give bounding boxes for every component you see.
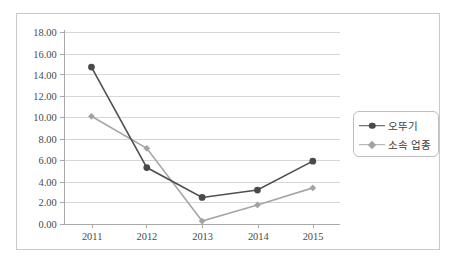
chart-frame: 0.002.004.006.008.0010.0012.0014.0016.00… (16, 13, 440, 250)
legend-item-series-a[interactable]: 오뚜기 (354, 116, 438, 135)
y-axis-tick-label: 8.00 (39, 134, 57, 145)
legend-marker-circle-icon (359, 120, 385, 132)
y-axis-tick-label: 14.00 (33, 70, 56, 81)
series-line-b (91, 116, 312, 221)
x-axis-tick-label: 2011 (82, 231, 103, 242)
y-axis-tick-label: 6.00 (39, 155, 57, 166)
legend-marker-diamond-icon (359, 139, 385, 151)
y-axis-tick-labels: 0.002.004.006.008.0010.0012.0014.0016.00… (33, 27, 56, 230)
chart-legend: 오뚜기 소속 업종 (353, 111, 439, 157)
x-axis-tick-labels: 20112012201320142015 (82, 231, 324, 242)
y-axis-tick-label: 0.00 (39, 219, 57, 230)
data-point-marker-diamond[interactable] (309, 185, 316, 192)
data-point-marker-circle[interactable] (254, 187, 261, 194)
y-axis-tick-label: 10.00 (33, 112, 56, 123)
data-point-marker-circle[interactable] (199, 194, 206, 201)
legend-label-series-a: 오뚜기 (385, 118, 418, 133)
y-axis-tick-label: 2.00 (39, 197, 57, 208)
x-axis-tick-label: 2013 (192, 231, 213, 242)
series-line-a (91, 67, 312, 197)
data-point-marker-circle[interactable] (309, 158, 316, 165)
y-axis-tick-label: 16.00 (33, 49, 56, 60)
data-point-marker-circle[interactable] (88, 64, 95, 71)
y-axis-tick-label: 12.00 (33, 91, 56, 102)
data-point-marker-diamond[interactable] (88, 113, 95, 120)
y-axis-tick-label: 4.00 (39, 177, 57, 188)
legend-label-series-b: 소속 업종 (385, 137, 431, 152)
x-axis-tick-label: 2012 (136, 231, 157, 242)
x-axis-tick-label: 2015 (303, 231, 324, 242)
y-axis-tick-label: 18.00 (33, 27, 56, 38)
data-series-group (88, 64, 316, 225)
legend-item-series-b[interactable]: 소속 업종 (354, 135, 438, 154)
x-axis-tick-label: 2014 (248, 231, 270, 242)
data-point-marker-circle[interactable] (143, 164, 150, 171)
